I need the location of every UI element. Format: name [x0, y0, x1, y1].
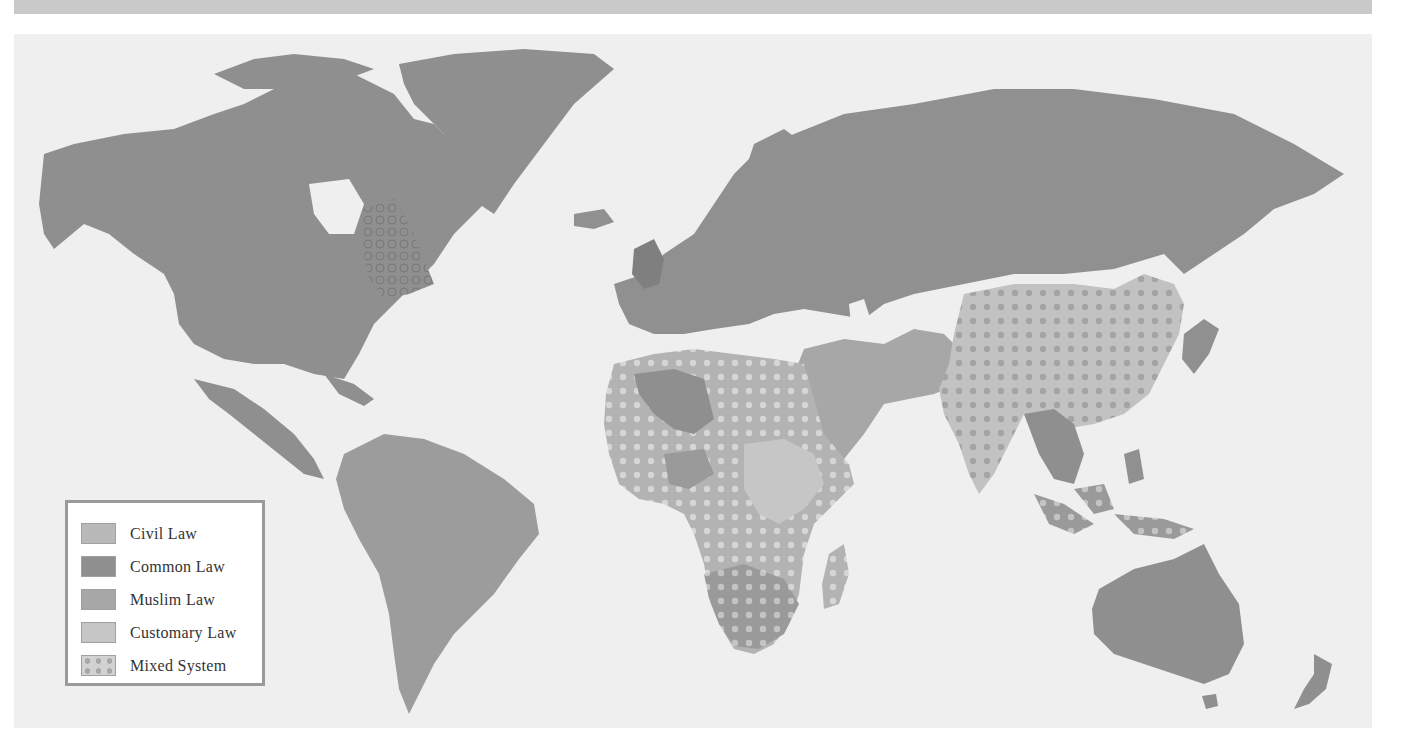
- region-madagascar: [822, 544, 849, 609]
- legend-label: Customary Law: [130, 624, 237, 642]
- legend-label: Mixed System: [130, 657, 227, 675]
- civil-law-swatch-icon: [81, 523, 116, 544]
- legend: Civil Law Common Law Muslim Law Customar…: [65, 500, 265, 686]
- legend-item-customary-law: Customary Law: [81, 616, 262, 649]
- customary-law-swatch-icon: [81, 622, 116, 643]
- legend-label: Muslim Law: [130, 591, 215, 609]
- region-south-america: [336, 434, 539, 714]
- top-band: [14, 0, 1372, 14]
- region-australia: [1092, 544, 1244, 684]
- legend-label: Civil Law: [130, 525, 197, 543]
- legend-label: Common Law: [130, 558, 225, 576]
- region-south-east-asia-mixed: [939, 274, 1184, 494]
- legend-item-muslim-law: Muslim Law: [81, 583, 262, 616]
- legend-item-civil-law: Civil Law: [81, 517, 262, 550]
- common-law-swatch-icon: [81, 556, 116, 577]
- legend-item-mixed-system: Mixed System: [81, 649, 262, 682]
- legend-item-common-law: Common Law: [81, 550, 262, 583]
- region-new-zealand: [1294, 654, 1332, 709]
- mixed-system-swatch-icon: [81, 655, 116, 676]
- muslim-law-swatch-icon: [81, 589, 116, 610]
